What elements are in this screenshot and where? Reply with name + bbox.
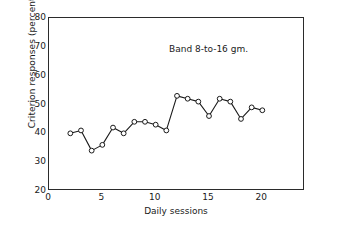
data-point-marker: [217, 96, 222, 101]
y-tick-label: 50: [6, 99, 46, 109]
data-point-marker: [175, 93, 180, 98]
data-point-marker: [228, 99, 233, 104]
chart-figure: Criterion responses (percent) Daily sess…: [0, 0, 352, 227]
series-polyline: [70, 96, 262, 151]
y-tick-label: 80: [6, 12, 46, 22]
plot-area: Band 8-to-16 gm.: [48, 17, 304, 190]
data-point-marker: [89, 148, 94, 153]
series-markers: [68, 93, 265, 153]
data-point-marker: [143, 119, 148, 124]
x-tick-label: 15: [193, 192, 223, 202]
x-axis-title: Daily sessions: [48, 206, 304, 216]
x-tick-label: 20: [246, 192, 276, 202]
data-point-marker: [153, 122, 158, 127]
y-tick-label: 30: [6, 156, 46, 166]
data-point-marker: [164, 128, 169, 133]
data-point-marker: [132, 119, 137, 124]
y-tick-label: 60: [6, 70, 46, 80]
data-point-marker: [196, 99, 201, 104]
y-tick-label: 70: [6, 41, 46, 51]
data-point-marker: [100, 142, 105, 147]
data-point-marker: [111, 125, 116, 130]
data-point-marker: [121, 131, 126, 136]
x-tick-label: 5: [86, 192, 116, 202]
data-point-marker: [207, 114, 212, 119]
data-point-marker: [185, 96, 190, 101]
data-point-marker: [239, 117, 244, 122]
x-tick-label: 10: [140, 192, 170, 202]
data-point-marker: [260, 108, 265, 113]
data-point-marker: [79, 128, 84, 133]
data-point-marker: [249, 105, 254, 110]
x-tick-label: 0: [33, 192, 63, 202]
chart-annotation: Band 8-to-16 gm.: [169, 44, 248, 54]
y-tick-label: 40: [6, 127, 46, 137]
data-point-marker: [68, 131, 73, 136]
